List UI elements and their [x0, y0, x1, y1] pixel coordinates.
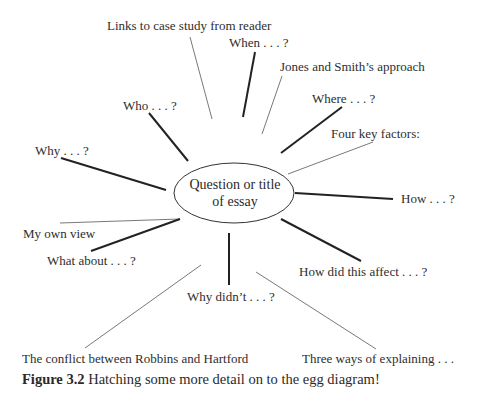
figure-caption-text: Hatching some more detail on to the egg … — [88, 371, 380, 387]
center-label-line1: Question or title — [170, 176, 300, 193]
label-conflict: The conflict between Robbins and Hartfor… — [22, 352, 248, 365]
label-why: Why . . . ? — [35, 144, 89, 157]
label-links: Links to case study from reader — [107, 19, 271, 32]
label-jones: Jones and Smith’s approach — [280, 60, 425, 73]
line-three — [256, 272, 376, 349]
label-where: Where . . . ? — [312, 92, 375, 105]
line-why — [61, 158, 166, 190]
center-label-line2: of essay — [170, 193, 300, 210]
label-when: When . . . ? — [229, 36, 289, 49]
line-howdid — [281, 219, 361, 261]
line-whatabout — [91, 219, 180, 251]
line-who — [149, 113, 188, 161]
line-myown — [60, 219, 180, 223]
label-howdid: How did this affect . . . ? — [299, 265, 427, 278]
center-label: Question or title of essay — [170, 176, 300, 210]
line-when — [243, 52, 255, 117]
figure-caption: Figure 3.2 Hatching some more detail on … — [22, 371, 380, 388]
line-four — [288, 142, 373, 174]
line-conflict — [85, 265, 201, 348]
label-how: How . . . ? — [401, 192, 455, 205]
label-who: Who . . . ? — [123, 99, 177, 112]
label-whydidnt: Why didn’t . . . ? — [187, 290, 275, 303]
label-four: Four key factors: — [331, 127, 420, 140]
label-three: Three ways of explaining . . . — [302, 352, 454, 365]
line-links — [190, 37, 212, 119]
line-how — [295, 193, 393, 199]
label-myown: My own view — [23, 227, 95, 240]
figure-number: Figure 3.2 — [22, 371, 85, 387]
label-whatabout: What about . . . ? — [47, 254, 136, 267]
line-jones — [262, 76, 282, 134]
